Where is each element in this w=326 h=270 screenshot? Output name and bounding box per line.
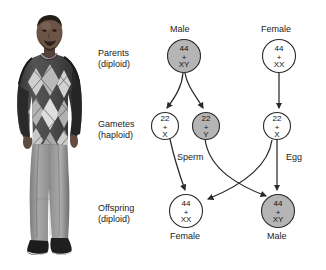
row-label-gametes: Gametes (haploid) bbox=[98, 119, 135, 141]
node-text-offspring-female: 44 + XX bbox=[171, 200, 201, 224]
caption-offspring-female: Female bbox=[170, 231, 200, 242]
figure-root: Parents (diploid) Gametes (haploid) Offs… bbox=[0, 0, 326, 270]
arrow-label-egg: Egg bbox=[286, 152, 302, 163]
arrow-male-to-gamete-x bbox=[167, 73, 183, 108]
row-label-parents-line1: Parents bbox=[98, 48, 130, 59]
node-text-offspring-male: 44 + XY bbox=[263, 200, 293, 224]
node-text-gamete-y-sperm: 22 + Y bbox=[192, 115, 220, 139]
parent-female-chromosomes: XX bbox=[264, 61, 294, 70]
row-label-gametes-line2: (haploid) bbox=[98, 130, 135, 141]
gamete-y-sperm-chromosomes: Y bbox=[192, 131, 220, 140]
arrow-spermy-to-offspring-male bbox=[205, 139, 266, 196]
arrow-spermx-to-offspring-female bbox=[170, 139, 185, 190]
row-label-gametes-line1: Gametes bbox=[98, 119, 135, 130]
header-parent-female: Female bbox=[261, 24, 291, 35]
caption-offspring-male: Male bbox=[267, 231, 287, 242]
row-label-offspring: Offspring (diploid) bbox=[98, 203, 134, 225]
arrow-label-sperm: Sperm bbox=[177, 152, 204, 163]
row-label-parents: Parents (diploid) bbox=[98, 48, 130, 70]
row-label-offspring-line2: (diploid) bbox=[98, 214, 134, 225]
row-label-offspring-line1: Offspring bbox=[98, 203, 134, 214]
header-parent-male: Male bbox=[170, 24, 190, 35]
gamete-x-egg-chromosomes: X bbox=[263, 131, 291, 140]
row-label-parents-line2: (diploid) bbox=[98, 59, 130, 70]
arrow-male-to-gamete-y bbox=[185, 73, 203, 108]
node-text-parent-female: 44 + XX bbox=[264, 45, 294, 69]
offspring-male-chromosomes: XY bbox=[263, 216, 293, 225]
node-text-gamete-x-egg: 22 + X bbox=[263, 115, 291, 139]
node-text-parent-male: 44 + XY bbox=[169, 45, 199, 69]
offspring-female-chromosomes: XX bbox=[171, 216, 201, 225]
arrow-egg-to-offspring-female bbox=[208, 140, 272, 199]
node-text-gamete-x-sperm: 22 + X bbox=[151, 115, 179, 139]
gamete-x-sperm-chromosomes: X bbox=[151, 131, 179, 140]
parent-male-chromosomes: XY bbox=[169, 61, 199, 70]
